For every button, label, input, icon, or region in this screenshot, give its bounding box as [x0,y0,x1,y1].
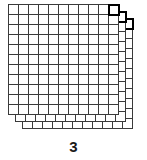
figure-caption: 3 [0,136,147,160]
grid-layer-3 [8,4,119,115]
grid-stack [0,0,147,136]
grid-layer-background [8,4,118,114]
figure-root: 3 [0,0,147,160]
grid-stack-svg [0,0,147,136]
